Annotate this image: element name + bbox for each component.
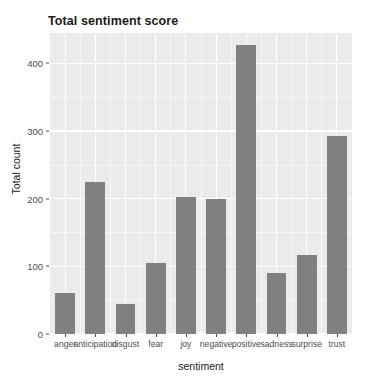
x-tick-label: negative [200, 339, 233, 349]
x-tick-mark [95, 334, 96, 337]
x-tick-label: positive [232, 339, 261, 349]
gridline-vertical-minor [261, 33, 262, 334]
bar [116, 304, 136, 334]
x-tick-mark [156, 334, 157, 337]
gridline-vertical-minor [80, 33, 81, 334]
y-tick-mark [46, 198, 49, 199]
y-tick-label: 200 [9, 193, 43, 204]
x-tick-label: surprise [291, 339, 322, 349]
x-tick-label: disgust [112, 339, 139, 349]
y-tick-mark [46, 334, 49, 335]
bar [206, 199, 226, 334]
bar [327, 136, 347, 334]
bar [267, 273, 287, 334]
x-axis-title: sentiment [50, 360, 352, 372]
chart-title: Total sentiment score [48, 14, 178, 28]
gridline-vertical-minor [170, 33, 171, 334]
y-tick-label: 100 [9, 261, 43, 272]
x-tick-mark [337, 334, 338, 337]
x-tick-mark [246, 334, 247, 337]
x-tick-label: fear [148, 339, 163, 349]
gridline-vertical [125, 33, 126, 334]
y-tick-label: 400 [9, 58, 43, 69]
gridline-horizontal [50, 63, 352, 64]
gridline-vertical-minor [321, 33, 322, 334]
gridline-vertical [65, 33, 66, 334]
x-tick-label: trust [329, 339, 346, 349]
y-tick-mark [46, 266, 49, 267]
bar [146, 263, 166, 334]
y-tick-mark [46, 63, 49, 64]
x-tick-label: joy [180, 339, 191, 349]
bar [297, 255, 317, 334]
y-tick-label: 0 [9, 329, 43, 340]
gridline-horizontal-minor [50, 97, 352, 98]
x-tick-label: sadness [260, 339, 292, 349]
bar [55, 293, 75, 334]
x-tick-mark [216, 334, 217, 337]
gridline-horizontal-minor [50, 165, 352, 166]
gridline-vertical-minor [231, 33, 232, 334]
gridline-vertical-minor [110, 33, 111, 334]
gridline-horizontal [50, 130, 352, 131]
gridline-vertical-minor [291, 33, 292, 334]
x-tick-mark [65, 334, 66, 337]
x-tick-label: anticipation [74, 339, 117, 349]
x-tick-mark [277, 334, 278, 337]
bar-chart: Total sentiment score Total count sentim… [0, 0, 365, 386]
bar [85, 182, 105, 334]
gridline-vertical-minor [140, 33, 141, 334]
gridline-vertical-minor [201, 33, 202, 334]
x-tick-mark [307, 334, 308, 337]
y-tick-label: 300 [9, 126, 43, 137]
bar [176, 197, 196, 334]
y-tick-mark [46, 131, 49, 132]
x-tick-mark [186, 334, 187, 337]
bar [236, 45, 256, 335]
plot-panel [50, 33, 352, 334]
x-tick-mark [126, 334, 127, 337]
